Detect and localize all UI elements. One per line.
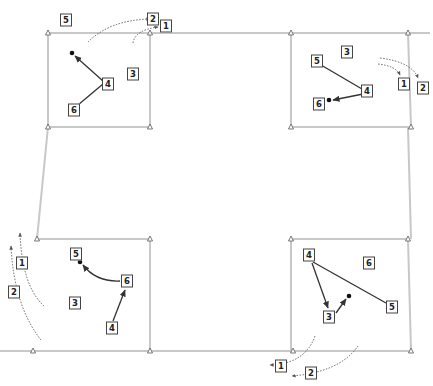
step-label-top-right: 6 bbox=[313, 98, 325, 111]
step-label-top-right: 3 bbox=[341, 46, 353, 59]
outside-step-label-top-left: 2 bbox=[147, 13, 159, 26]
step-label-top-left: 4 bbox=[102, 78, 114, 91]
step-label-top-right: 5 bbox=[311, 55, 323, 68]
outside-step-label-top-right: 1 bbox=[398, 78, 410, 91]
step-label-bottom-right: 5 bbox=[386, 301, 398, 314]
step-label-bottom-left: 3 bbox=[69, 297, 81, 310]
step-label-bottom-right: 6 bbox=[363, 257, 375, 270]
outer-frame bbox=[0, 33, 430, 351]
step-label-bottom-left: 4 bbox=[106, 322, 118, 335]
step-label-top-left: 6 bbox=[68, 104, 80, 117]
step-label-bottom-left: 6 bbox=[121, 275, 133, 288]
step-label-top-right: 4 bbox=[361, 85, 373, 98]
panel-top-left bbox=[46, 19, 159, 129]
step-label-bottom-right: 3 bbox=[323, 311, 335, 324]
outside-step-label-bottom-right: 1 bbox=[275, 360, 287, 373]
step-label-bottom-right: 4 bbox=[303, 249, 315, 262]
outside-step-label-top-right: 2 bbox=[417, 82, 429, 95]
outside-step-label-bottom-right: 2 bbox=[305, 367, 317, 380]
step-label-bottom-left: 5 bbox=[70, 248, 82, 261]
step-label-top-left: 5 bbox=[60, 14, 72, 27]
outside-step-label-bottom-left: 2 bbox=[8, 286, 20, 299]
outside-step-label-top-left: 1 bbox=[160, 20, 172, 33]
diagram-canvas bbox=[0, 0, 433, 386]
outside-step-label-bottom-left: 1 bbox=[16, 257, 28, 270]
step-label-top-left: 3 bbox=[127, 68, 139, 81]
